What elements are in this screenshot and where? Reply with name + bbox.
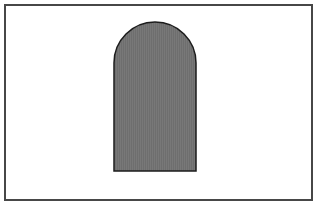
diagram-svg [0, 0, 317, 207]
arch-shape [114, 22, 196, 171]
diagram-canvas [0, 0, 317, 207]
